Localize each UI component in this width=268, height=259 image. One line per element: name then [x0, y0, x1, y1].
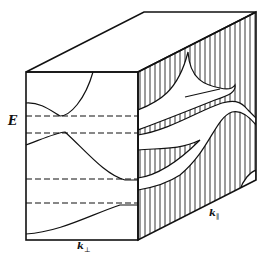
- band-curve-3: [26, 205, 138, 234]
- energy-axis-label: E: [7, 114, 18, 128]
- band-structure-block-diagram: E k ⊥ k ∥: [0, 0, 268, 259]
- k-perp-letter: k: [77, 240, 84, 251]
- right-face-gaps: [138, 52, 256, 190]
- band-curve-1: [26, 72, 93, 116]
- top-face: [26, 12, 256, 72]
- k-perp-label: k ⊥: [77, 240, 91, 254]
- k-par-subscript: ∥: [216, 213, 219, 221]
- k-par-letter: k: [209, 207, 216, 218]
- band-curve-2: [26, 132, 138, 180]
- k-par-label: k ∥: [209, 207, 219, 221]
- k-perp-subscript: ⊥: [84, 246, 91, 254]
